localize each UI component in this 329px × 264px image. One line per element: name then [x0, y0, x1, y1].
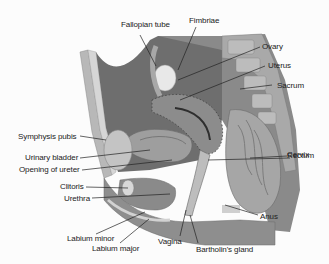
leader-labium-minor	[96, 212, 145, 234]
leader-symphysis-pubis	[80, 136, 106, 140]
label-fallopian-tube: Fallopian tube	[121, 20, 170, 29]
anatomy-diagram: Fallopian tube Fimbriae Ovary Uterus Sac…	[0, 0, 329, 264]
label-sacrum: Sacrum	[277, 81, 304, 90]
label-fimbriae: Fimbriae	[189, 16, 219, 25]
label-symphysis-pubis: Symphysis pubis	[18, 132, 77, 141]
leader-sacrum	[240, 85, 272, 89]
label-opening-of-ureter: Opening of ureter	[19, 165, 80, 174]
label-anus: Anus	[260, 212, 278, 221]
label-labium-major: Labium major	[92, 244, 139, 253]
leader-rectum	[250, 156, 287, 158]
leader-uterus	[180, 66, 265, 100]
label-uterus: Uterus	[268, 61, 291, 70]
label-labium-minor: Labium minor	[67, 234, 114, 243]
leader-fallopian-tube	[140, 35, 156, 66]
label-vagina: Vagina	[158, 237, 182, 246]
leader-cervix	[208, 158, 290, 160]
label-urinary-bladder: Urinary bladder	[25, 153, 78, 162]
leader-fimbriae	[178, 27, 196, 70]
leader-clitoris	[86, 187, 128, 188]
leader-urinary-bladder	[80, 150, 150, 158]
leader-urethra	[92, 194, 170, 198]
leader-labium-major	[120, 219, 149, 243]
label-bartholins-gland: Bartholin's gland	[196, 245, 253, 254]
leader-vagina	[180, 210, 186, 236]
leader-opening-of-ureter	[82, 160, 172, 170]
leader-bartholins-gland	[190, 215, 198, 243]
label-urethra: Urethra	[64, 194, 90, 203]
leader-ovary	[178, 47, 260, 80]
leader-anus	[225, 205, 258, 215]
label-clitoris: Clitoris	[60, 182, 84, 191]
label-ovary: Ovary	[262, 42, 283, 51]
label-rectum: Rectum	[287, 151, 314, 160]
